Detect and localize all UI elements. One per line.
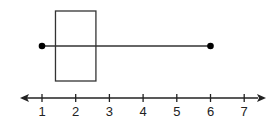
tick-label: 2 <box>72 104 79 119</box>
tick-label: 4 <box>139 104 146 119</box>
max-point <box>207 43 214 50</box>
number-line-axis: 1234567 <box>20 94 266 119</box>
min-point <box>39 43 46 50</box>
tick-label: 7 <box>241 104 248 119</box>
box-plot: 1234567 <box>0 0 278 126</box>
tick-label: 1 <box>38 104 45 119</box>
tick-label: 3 <box>106 104 113 119</box>
tick-label: 6 <box>207 104 214 119</box>
tick-label: 5 <box>173 104 180 119</box>
right-arrow-icon <box>257 94 266 102</box>
